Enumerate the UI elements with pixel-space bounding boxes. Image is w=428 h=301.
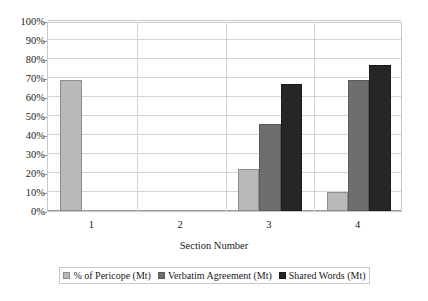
bar-section-1-series-0 [60,80,81,211]
y-tick-label-90: 90% [1,36,45,46]
page-bleed-text [0,0,428,5]
bar-chart: 0%10%20%30%40%50%60%70%80%90%100% 1234 S… [0,0,428,301]
chart-legend: % of Pericope (Mt)Verbatim Agreement (Mt… [59,267,370,284]
y-tick-label-60: 60% [1,93,45,103]
legend-label-0: % of Pericope (Mt) [73,270,150,281]
legend-swatch-icon-1 [158,272,165,279]
bar-section-4-series-0 [327,192,348,211]
gridline-90 [48,39,401,40]
y-tick-label-10: 10% [1,188,45,198]
y-tick-label-0: 0% [1,207,45,217]
x-tick-label-2: 2 [150,219,210,231]
gridline-80 [48,58,401,59]
legend-label-2: Shared Words (Mt) [289,270,366,281]
category-separator-3 [314,23,315,211]
legend-item-0: % of Pericope (Mt) [63,270,150,281]
x-axis-title: Section Number [0,240,428,252]
y-tick-label-30: 30% [1,150,45,160]
x-tick-label-4: 4 [328,219,388,231]
bar-section-4-series-2 [369,65,390,211]
y-tick-label-70: 70% [1,74,45,84]
category-separator-1 [137,23,138,211]
legend-label-1: Verbatim Agreement (Mt) [168,270,272,281]
y-tick-mark-0 [43,212,47,213]
category-separator-2 [226,23,227,211]
bar-section-3-series-0 [238,169,259,211]
gridline-100 [48,20,401,21]
y-tick-label-40: 40% [1,131,45,141]
x-tick-label-3: 3 [239,219,299,231]
y-tick-label-20: 20% [1,169,45,179]
y-tick-label-50: 50% [1,112,45,122]
y-tick-label-100: 100% [1,17,45,27]
legend-swatch-icon-2 [279,272,286,279]
bar-section-4-series-1 [348,80,369,211]
gridline-70 [48,77,401,78]
bar-section-3-series-2 [281,84,302,211]
legend-item-2: Shared Words (Mt) [279,270,366,281]
bar-section-3-series-1 [259,124,280,211]
y-tick-label-80: 80% [1,55,45,65]
x-tick-label-1: 1 [61,219,121,231]
legend-item-1: Verbatim Agreement (Mt) [158,270,272,281]
legend-swatch-icon-0 [63,272,70,279]
plot-area [47,22,402,212]
